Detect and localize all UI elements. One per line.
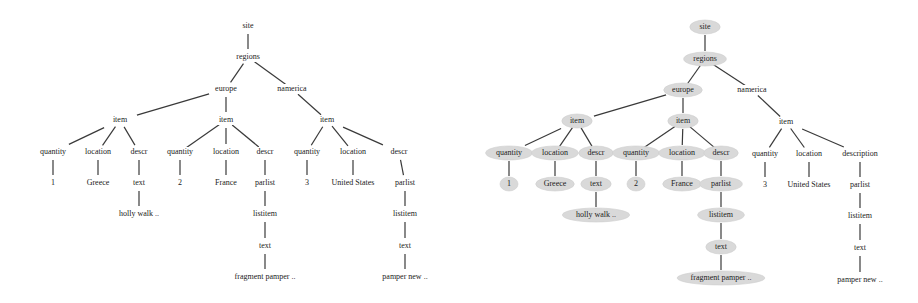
- tree-node-regions: regions: [684, 52, 727, 66]
- node-label: quantity: [623, 148, 649, 157]
- node-label: regions: [693, 54, 717, 63]
- tree-node-li2: listitem: [698, 208, 745, 222]
- tree-node-t2: text: [706, 240, 736, 254]
- tree-node-q3: quantity: [747, 149, 784, 159]
- tree-edge: [311, 127, 323, 145]
- tree-edge: [560, 128, 573, 147]
- tree-node-d3: descr: [387, 147, 412, 157]
- node-label: descr: [391, 147, 408, 156]
- tree-edge: [232, 125, 259, 147]
- tree-node-d1: descr: [127, 147, 152, 157]
- tree-node-t1: text: [129, 178, 149, 188]
- tree-node-d1: descr: [579, 146, 614, 160]
- tree-node-site: site: [238, 21, 258, 31]
- node-label: item: [779, 117, 794, 126]
- node-label: location: [340, 147, 366, 156]
- tree-node-namerica: namerica: [274, 84, 311, 94]
- tree-node-p3: parlist: [389, 178, 422, 188]
- tree-node-l3: location: [791, 149, 828, 159]
- tree-node-regions: regions: [232, 52, 265, 62]
- node-label: 3: [305, 178, 309, 187]
- tree-node-d2: descr: [704, 146, 739, 160]
- tree-node-t3: text: [395, 241, 415, 251]
- tree-edge: [124, 127, 135, 145]
- tree-node-p2: parlist: [249, 178, 282, 188]
- node-label: location: [85, 147, 111, 156]
- tree-node-pn: pamper new ..: [831, 275, 888, 285]
- tree-edge: [137, 94, 209, 115]
- tree-edge: [802, 129, 844, 147]
- tree-edge: [712, 63, 746, 85]
- tree-edge: [758, 95, 780, 116]
- node-label: namerica: [277, 84, 307, 93]
- node-label: parlist: [255, 178, 276, 187]
- tree-edge: [187, 125, 220, 148]
- node-label: location: [796, 149, 822, 158]
- tree-node-namerica: namerica: [734, 85, 771, 95]
- node-label: parlist: [850, 180, 871, 189]
- tree-node-v6: United States: [780, 180, 837, 190]
- tree-edge: [643, 126, 677, 149]
- node-label: pamper new ..: [837, 275, 882, 284]
- tree-node-pn: pamper new ..: [376, 272, 433, 282]
- tree-edge: [254, 62, 285, 85]
- node-label: text: [259, 241, 272, 250]
- tree-node-v5: 3: [761, 180, 769, 190]
- tree-node-li3: listitem: [842, 211, 879, 221]
- tree-edge: [525, 128, 561, 145]
- tree-node-v1: 1: [500, 177, 518, 191]
- tree-edge: [581, 128, 592, 146]
- node-label: United States: [788, 180, 831, 189]
- node-label: location: [213, 147, 239, 156]
- tree-node-t3: text: [850, 243, 870, 253]
- tree-edge: [689, 126, 715, 148]
- tree-node-q3: quantity: [289, 147, 326, 157]
- tree-node-p3: parlist: [844, 180, 877, 190]
- node-label: item: [219, 115, 234, 124]
- tree-node-hw: holly walk ..: [562, 208, 629, 222]
- node-label: quantity: [167, 147, 193, 156]
- tree-node-europe: europe: [212, 84, 241, 94]
- tree-node-item1: item: [562, 114, 592, 128]
- node-label: 3: [763, 180, 767, 189]
- tree-node-v3: 2: [176, 178, 184, 188]
- node-label: location: [542, 148, 568, 157]
- node-label: text: [133, 178, 146, 187]
- node-label: text: [399, 241, 412, 250]
- tree-node-item2: item: [668, 114, 698, 128]
- tree-node-l1: location: [80, 147, 117, 157]
- node-label: 2: [178, 178, 182, 187]
- tree-node-europe: europe: [664, 83, 703, 97]
- tree-node-item3: item: [317, 115, 337, 125]
- node-label: descr: [257, 147, 274, 156]
- node-label: item: [320, 115, 335, 124]
- tree-node-l2: location: [208, 147, 245, 157]
- tree-edge: [401, 160, 404, 175]
- tree-edge: [231, 64, 244, 83]
- node-label: holly walk ..: [576, 210, 616, 219]
- tree-node-q1: quantity: [486, 146, 533, 160]
- tree-edge: [69, 128, 104, 145]
- node-label: parlist: [711, 179, 732, 188]
- node-label: listitem: [709, 210, 734, 219]
- node-label: item: [570, 116, 585, 125]
- node-label: text: [854, 243, 867, 252]
- tree-node-v2: Greece: [84, 178, 113, 188]
- tree-node-q2: quantity: [162, 147, 199, 157]
- tree-node-v4: France: [212, 178, 241, 188]
- node-label: europe: [215, 84, 237, 93]
- node-label: descr: [131, 147, 148, 156]
- node-label: item: [676, 116, 691, 125]
- tree-node-p2: parlist: [700, 177, 743, 191]
- tree-node-li2: listitem: [247, 209, 284, 219]
- tree-edge: [298, 94, 321, 114]
- tree-node-v5: 3: [303, 178, 311, 188]
- node-label: namerica: [737, 85, 767, 94]
- node-label: descr: [713, 148, 730, 157]
- node-label: Greece: [544, 179, 567, 188]
- node-label: France: [671, 179, 693, 188]
- node-label: quantity: [40, 147, 66, 156]
- tree-node-q1: quantity: [35, 147, 72, 157]
- tree-node-fp: fragment pamper ..: [226, 272, 304, 282]
- tree-edge: [769, 129, 781, 148]
